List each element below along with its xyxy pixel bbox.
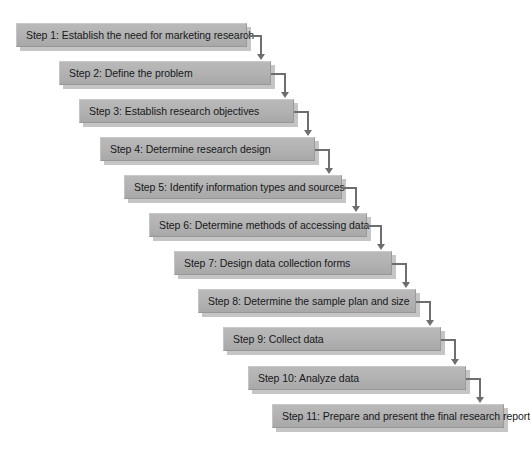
process-step-label-5: Step 5: Identify information types and s… xyxy=(134,181,345,193)
connector-vertical-segment xyxy=(355,187,357,206)
process-step-box-3: Step 3: Establish research objectives xyxy=(79,99,294,123)
connector-arrowhead-icon xyxy=(451,359,459,365)
connector-arrowhead-icon xyxy=(476,397,484,403)
connector-vertical-segment xyxy=(260,35,262,54)
flowchart-canvas: Step 1: Establish the need for marketing… xyxy=(0,0,530,464)
process-step-box-2: Step 2: Define the problem xyxy=(59,61,271,85)
process-step-box-1: Step 1: Establish the need for marketing… xyxy=(16,23,247,47)
connector-horizontal-segment xyxy=(271,73,286,75)
process-step-label-8: Step 8: Determine the sample plan and si… xyxy=(208,295,410,307)
connector-arrowhead-icon xyxy=(325,168,333,174)
process-step-box-4: Step 4: Determine research design xyxy=(100,137,315,161)
connector-arrowhead-icon xyxy=(281,92,289,98)
connector-horizontal-segment xyxy=(315,149,330,151)
connector-arrowhead-icon xyxy=(257,54,265,60)
connector-arrowhead-icon xyxy=(402,282,410,288)
connector-vertical-segment xyxy=(328,149,330,168)
connector-horizontal-segment xyxy=(416,301,431,303)
connector-vertical-segment xyxy=(405,263,407,282)
connector-arrowhead-icon xyxy=(352,206,360,212)
process-step-label-9: Step 9: Collect data xyxy=(233,333,324,345)
process-step-box-10: Step 10: Analyze data xyxy=(248,366,466,390)
connector-arrowhead-icon xyxy=(426,320,434,326)
connector-vertical-segment xyxy=(479,378,481,397)
process-step-label-6: Step 6: Determine methods of accessing d… xyxy=(159,219,369,231)
connector-vertical-segment xyxy=(429,301,431,320)
process-step-box-9: Step 9: Collect data xyxy=(223,327,441,351)
connector-horizontal-segment xyxy=(294,111,309,113)
process-step-label-7: Step 7: Design data collection forms xyxy=(184,257,350,269)
connector-horizontal-segment xyxy=(466,378,481,380)
process-step-box-7: Step 7: Design data collection forms xyxy=(174,251,392,275)
process-step-box-8: Step 8: Determine the sample plan and si… xyxy=(198,289,416,313)
process-step-label-4: Step 4: Determine research design xyxy=(110,143,271,155)
connector-vertical-segment xyxy=(380,225,382,244)
connector-arrowhead-icon xyxy=(377,244,385,250)
connector-horizontal-segment xyxy=(441,339,456,341)
process-step-box-6: Step 6: Determine methods of accessing d… xyxy=(149,213,367,237)
connector-horizontal-segment xyxy=(392,263,407,265)
process-step-label-2: Step 2: Define the problem xyxy=(69,67,193,79)
process-step-label-10: Step 10: Analyze data xyxy=(258,372,359,384)
connector-vertical-segment xyxy=(454,339,456,359)
process-step-label-11: Step 11: Prepare and present the final r… xyxy=(282,410,530,422)
process-step-box-11: Step 11: Prepare and present the final r… xyxy=(272,404,504,428)
process-step-box-5: Step 5: Identify information types and s… xyxy=(124,175,342,199)
connector-vertical-segment xyxy=(307,111,309,130)
connector-vertical-segment xyxy=(284,73,286,92)
process-step-label-3: Step 3: Establish research objectives xyxy=(89,105,259,117)
process-step-label-1: Step 1: Establish the need for marketing… xyxy=(26,29,254,41)
connector-arrowhead-icon xyxy=(304,130,312,136)
